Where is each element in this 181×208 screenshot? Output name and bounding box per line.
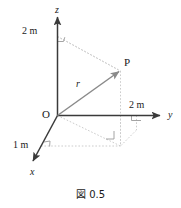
position-vector-r (58, 72, 120, 116)
right-angle-markers (44, 37, 141, 146)
z-axis-label: z (55, 5, 59, 15)
point-p-label: P (124, 57, 130, 68)
dotted-construction-lines (41, 37, 137, 147)
right-angle-marker-xy (106, 131, 114, 139)
vector-r-label: r (76, 79, 80, 89)
x-axis (33, 116, 58, 162)
y-axis-label: y (168, 110, 172, 120)
x-axis-label: x (30, 167, 34, 177)
right-angle-marker-z (58, 37, 65, 41)
dimension-label-x: 1 m (13, 140, 28, 150)
origin-label: O (42, 109, 50, 120)
figure-container: z y x O P r 2 m 2 m 1 m 図 0.5 (0, 0, 181, 208)
dimension-label-z: 2 m (22, 26, 37, 36)
dimension-label-y: 2 m (129, 100, 144, 110)
figure-caption: 図 0.5 (0, 186, 181, 201)
